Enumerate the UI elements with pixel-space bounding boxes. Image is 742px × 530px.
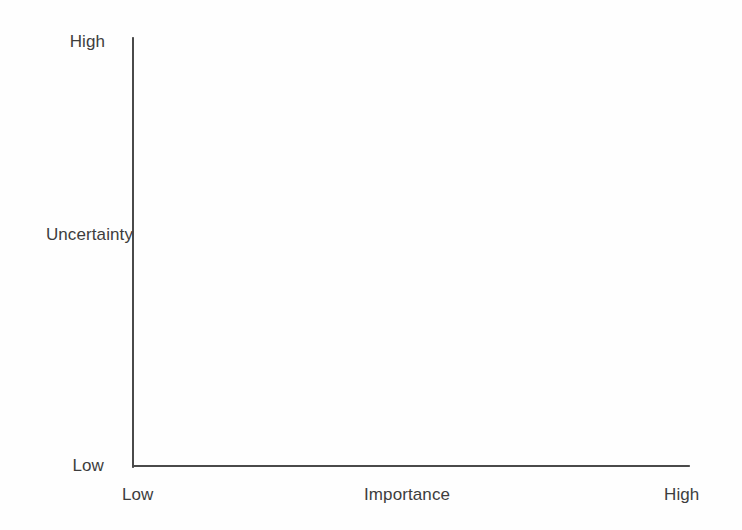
y-axis-low-label: Low (73, 457, 105, 474)
x-axis-low-label: Low (122, 486, 154, 503)
plot-area (134, 37, 690, 465)
chart-figure: High Uncertainty Low Low Importance High (0, 0, 742, 530)
x-axis-line (132, 465, 690, 467)
y-axis-title: Uncertainty (46, 226, 133, 243)
x-axis-title: Importance (364, 486, 450, 503)
y-axis-high-label: High (70, 33, 105, 50)
x-axis-high-label: High (664, 486, 699, 503)
